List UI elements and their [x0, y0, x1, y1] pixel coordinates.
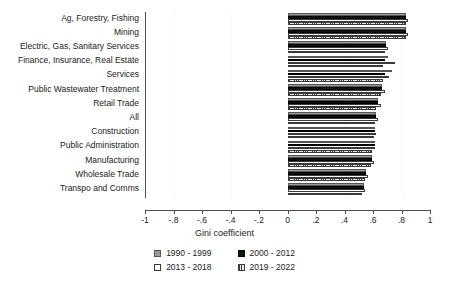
x-axis-tick-label: -.8 [169, 215, 179, 225]
y-axis-category-label: Public Administration [60, 141, 139, 150]
x-axis-tick-label: .8 [398, 215, 405, 225]
chart-category-row: All [0, 112, 449, 126]
y-axis-category-label: Manufacturing [85, 156, 139, 165]
legend-label: 1990 - 1999 [166, 248, 211, 258]
chart-bar [288, 93, 381, 96]
x-axis-tick-label: -.2 [254, 215, 264, 225]
chart-bar [288, 150, 372, 153]
x-axis-tick-label: -.4 [226, 215, 236, 225]
chart-bar [288, 193, 362, 196]
chart-bar [288, 65, 383, 68]
chart-bar [288, 22, 406, 25]
chart-bar [288, 122, 375, 125]
x-axis-tick-label: .6 [369, 215, 376, 225]
y-axis-category-label: Transpo and Comms [60, 184, 139, 193]
chart-category-row: Public Administration [0, 141, 449, 155]
chart-category-row: Ag, Forestry, Fishing [0, 13, 449, 27]
legend-label: 2013 - 2018 [166, 262, 211, 272]
x-axis-tick [174, 210, 175, 214]
legend-swatch-icon [154, 250, 161, 257]
chart-bar [288, 178, 365, 181]
chart-category-row: Transpo and Comms [0, 183, 449, 197]
x-axis-tick [202, 210, 203, 214]
x-axis-tick-label: -1 [141, 215, 149, 225]
chart-category-row: Retail Trade [0, 98, 449, 112]
legend-item[interactable]: 2019 - 2022 [238, 262, 295, 272]
chart-category-row: Public Wastewater Treatment [0, 84, 449, 98]
legend-swatch-icon [154, 264, 161, 271]
y-axis-category-label: Retail Trade [93, 99, 139, 108]
chart-bar [288, 107, 376, 110]
y-axis-category-label: All [130, 113, 139, 122]
chart-bar [288, 79, 383, 82]
x-axis-tick [345, 210, 346, 214]
y-axis-category-label: Construction [91, 127, 139, 136]
chart-bar [288, 51, 385, 54]
y-axis-category-label: Public Wastewater Treatment [28, 85, 139, 94]
x-axis-tick [402, 210, 403, 214]
x-axis-tick-label: -.6 [197, 215, 207, 225]
legend-item[interactable]: 1990 - 1999 [154, 248, 211, 258]
chart-category-row: Mining [0, 27, 449, 41]
chart-category-row: Finance, Insurance, Real Estate [0, 56, 449, 70]
x-axis-tick-label: .2 [312, 215, 319, 225]
legend-item[interactable]: 2000 - 2012 [238, 248, 295, 258]
chart-bar [288, 136, 374, 139]
x-axis-tick [373, 210, 374, 214]
y-axis-category-label: Mining [114, 28, 139, 37]
chart-category-row: Services [0, 70, 449, 84]
x-axis-tick [316, 210, 317, 214]
x-axis-tick [288, 210, 289, 214]
y-axis-category-label: Electric, Gas, Sanitary Services [20, 42, 139, 51]
chart-category-row: Electric, Gas, Sanitary Services [0, 41, 449, 55]
chart-bar [288, 164, 371, 167]
x-axis-tick [231, 210, 232, 214]
x-axis-title: Gini coefficient [0, 228, 449, 238]
chart-category-row: Wholesale Trade [0, 169, 449, 183]
legend-swatch-icon [238, 264, 245, 271]
chart-bar [288, 36, 406, 39]
chart-category-row: Construction [0, 127, 449, 141]
x-axis-tick-label: .4 [341, 215, 348, 225]
x-axis-tick-label: 1 [428, 215, 433, 225]
gini-coefficient-bar-chart: Ag, Forestry, FishingMiningElectric, Gas… [0, 0, 449, 284]
legend-label: 2019 - 2022 [250, 262, 295, 272]
x-axis-tick [259, 210, 260, 214]
chart-category-row: Manufacturing [0, 155, 449, 169]
y-axis-category-label: Services [106, 70, 139, 79]
y-axis-category-label: Wholesale Trade [75, 170, 139, 179]
chart-legend: 1990 - 19992000 - 20122013 - 20182019 - … [0, 248, 449, 272]
legend-swatch-icon [238, 250, 245, 257]
y-axis-category-label: Finance, Insurance, Real Estate [18, 56, 139, 65]
x-axis-tick [430, 210, 431, 214]
legend-label: 2000 - 2012 [250, 248, 295, 258]
x-axis-tick [145, 210, 146, 214]
y-axis-category-label: Ag, Forestry, Fishing [61, 14, 139, 23]
x-axis-tick-label: 0 [285, 215, 290, 225]
legend-item[interactable]: 2013 - 2018 [154, 262, 211, 272]
